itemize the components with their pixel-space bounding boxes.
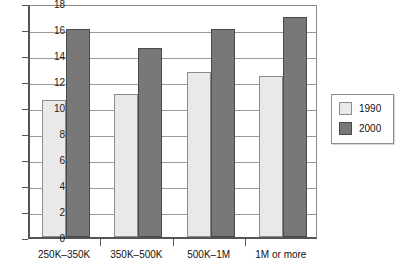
legend-item-2000: 2000 [339, 122, 381, 135]
bar-2000-1 [138, 48, 162, 237]
x-axis-category-label: 500K–1M [187, 249, 230, 260]
legend-swatch-1990-icon [339, 102, 352, 115]
x-axis-tick-mark [173, 239, 174, 246]
x-axis-category-label: 350K–500K [110, 249, 162, 260]
plot-inner [30, 6, 316, 237]
legend-swatch-2000-icon [339, 122, 352, 135]
y-axis-tick-mark [22, 83, 28, 84]
y-axis-tick-label: 2 [25, 208, 65, 218]
x-axis-tick-mark [245, 239, 246, 246]
x-axis-tick-mark [100, 239, 101, 246]
y-axis-tick-label: 18 [25, 0, 65, 10]
x-axis-category-label: 250K–350K [38, 249, 90, 260]
bar-2000-3 [283, 17, 307, 237]
bar-chart: 024681012141618 250K–350K350K–500K500K–1… [0, 0, 399, 272]
legend-label-1990: 1990 [359, 104, 381, 114]
x-axis-category-label: 1M or more [255, 249, 306, 260]
y-axis-tick-mark [22, 109, 28, 110]
bar-1990-3 [259, 76, 283, 237]
legend-item-1990: 1990 [339, 102, 381, 115]
y-axis-tick-mark [22, 57, 28, 58]
clipped-caption-text [150, 268, 399, 272]
bar-1990-1 [114, 94, 138, 237]
y-axis-tick-mark [22, 5, 28, 6]
y-axis-tick-label: 12 [25, 78, 65, 88]
y-axis-tick-label: 0 [25, 234, 65, 244]
bar-2000-0 [66, 29, 90, 237]
y-axis-tick-label: 16 [25, 26, 65, 36]
clipped-caption [0, 268, 399, 272]
y-axis-tick-label: 4 [25, 182, 65, 192]
legend-label-2000: 2000 [359, 124, 381, 134]
y-axis-tick-label: 10 [25, 104, 65, 114]
y-axis-tick-mark [22, 239, 28, 240]
y-axis-tick-mark [22, 135, 28, 136]
y-axis-tick-label: 8 [25, 130, 65, 140]
bar-2000-2 [211, 29, 235, 237]
y-axis-tick-label: 14 [25, 52, 65, 62]
y-axis-tick-mark [22, 161, 28, 162]
y-axis-tick-mark [22, 187, 28, 188]
bar-1990-2 [187, 72, 211, 237]
y-axis-tick-mark [22, 213, 28, 214]
legend: 1990 2000 [331, 94, 394, 144]
plot-area [28, 5, 317, 239]
y-axis-tick-mark [22, 31, 28, 32]
y-axis-tick-label: 6 [25, 156, 65, 166]
